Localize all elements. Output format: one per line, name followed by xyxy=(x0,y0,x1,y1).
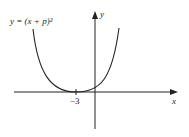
equation-label: y = (x + p)² xyxy=(9,16,53,26)
y-axis-label: y xyxy=(99,9,104,19)
vertex-tick-label: −3 xyxy=(70,96,80,106)
graph-figure: y = (x + p)² y x −3 xyxy=(0,0,189,137)
parabola-curve xyxy=(33,28,119,92)
x-axis-arrow-icon xyxy=(170,89,178,95)
x-axis-label: x xyxy=(171,96,176,106)
y-axis-arrow-icon xyxy=(92,11,98,19)
graph-svg: y = (x + p)² y x −3 xyxy=(0,0,189,137)
